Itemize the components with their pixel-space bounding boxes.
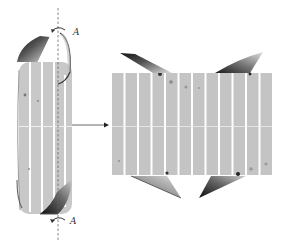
bottom-right-flap [199, 176, 246, 198]
top-right-flap [215, 52, 263, 73]
top-flap [17, 36, 50, 62]
axis-label-bottom: A [69, 216, 77, 226]
top-left-flap [120, 53, 172, 73]
axis-label-top: A [72, 27, 80, 37]
panel-stripes [112, 68, 272, 176]
rotation-arrow-bottom-icon [50, 218, 65, 223]
rolled-cylinder: A A [17, 8, 80, 240]
unrolling-diagram: A A [0, 0, 281, 245]
unroll-arrow-icon [72, 123, 109, 128]
unrolled-panel [112, 52, 272, 198]
